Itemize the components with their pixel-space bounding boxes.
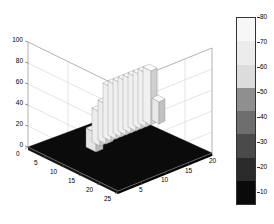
colorbar-tick-labels: 80 70 60 50 40 30 20 10 <box>257 17 274 205</box>
colorbar-band-7 <box>237 41 255 64</box>
axes-3d: 100 80 60 40 20 0 0 5 10 15 20 25 5 10 1… <box>0 0 230 224</box>
colorbar-label-20: 20 <box>260 164 267 171</box>
z-tick-label-40: 40 <box>2 100 23 107</box>
colorbar-label-30: 30 <box>260 139 267 146</box>
bar-right-outlier <box>152 95 165 124</box>
z-axis-ticks <box>25 41 28 147</box>
colorbar-band-8 <box>237 18 255 41</box>
x-tick-label-20: 20 <box>86 187 93 194</box>
z-tick-label-100: 100 <box>2 37 23 44</box>
colorbar-label-70: 70 <box>260 39 267 46</box>
x-tick-label-15: 15 <box>68 178 75 185</box>
y-tick-label-15: 15 <box>185 168 192 175</box>
figure-3d-bar-chart: 100 80 60 40 20 0 0 5 10 15 20 25 5 10 1… <box>0 0 274 224</box>
x-tick-label-0: 0 <box>16 151 20 158</box>
y-tick-label-5: 5 <box>139 187 143 194</box>
colorbar-label-40: 40 <box>260 114 267 121</box>
colorbar-label-10: 10 <box>260 189 267 196</box>
x-tick-label-25: 25 <box>104 196 111 203</box>
z-tick-label-60: 60 <box>2 79 23 86</box>
colorbar-band-4 <box>237 111 255 134</box>
x-tick-label-10: 10 <box>50 169 57 176</box>
z-tick-label-0: 0 <box>2 142 23 149</box>
z-tick-label-80: 80 <box>2 58 23 65</box>
colorbar <box>236 17 256 205</box>
colorbar-label-50: 50 <box>260 89 267 96</box>
axes-3d-canvas <box>0 0 230 224</box>
colorbar-label-80: 80 <box>260 14 267 21</box>
colorbar-band-3 <box>237 134 255 157</box>
x-tick-label-5: 5 <box>34 160 38 167</box>
colorbar-band-2 <box>237 158 255 181</box>
y-tick-label-10: 10 <box>161 177 168 184</box>
z-tick-label-20: 20 <box>2 121 23 128</box>
y-tick-label-20: 20 <box>209 158 216 165</box>
colorbar-label-60: 60 <box>260 64 267 71</box>
colorbar-band-6 <box>237 65 255 88</box>
colorbar-band-5 <box>237 88 255 111</box>
colorbar-band-1 <box>237 181 255 204</box>
